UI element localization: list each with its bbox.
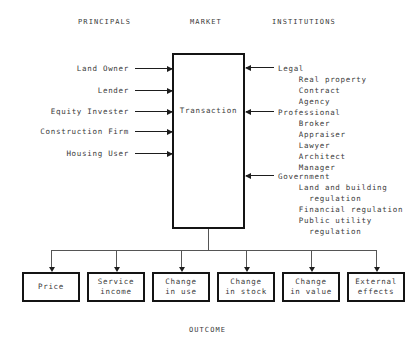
institution-arrow-icon [246,67,274,68]
institution-arrow-icon [246,111,274,112]
outcome-caption: OUTCOME [0,326,415,334]
diagram-canvas: PRINCIPALS MARKET INSTITUTIONS Transacti… [0,0,415,350]
principal-arrow-icon [135,90,172,91]
principal-arrow-icon [135,68,172,69]
outcome-dropper-icon [51,250,52,268]
distribution-bar [51,250,376,251]
principal-arrow-icon [135,153,172,154]
principal-arrow-icon [135,131,172,132]
outcome-dropper-icon [376,250,377,268]
column-header-principals: PRINCIPALS [78,18,131,26]
institution-group-legal: Legal Real property Contract Agency [278,63,367,107]
outcome-box: External effects [347,272,405,302]
outcome-box: Price [22,272,80,302]
outcome-box: Change in use [152,272,210,302]
principal-arrow-icon [135,111,172,112]
transaction-stem-connector [208,229,209,250]
institution-arrow-icon [246,175,274,176]
principal-label: Land Owner [77,64,129,73]
column-header-market: MARKET [190,18,222,26]
column-header-institutions: INSTITUTIONS [272,18,336,26]
outcome-dropper-icon [311,250,312,268]
institution-group-professional: Professional Broker Appraiser Lawyer Arc… [278,107,346,173]
outcome-dropper-icon [246,250,247,268]
transaction-box [172,53,245,229]
outcome-dropper-icon [116,250,117,268]
principal-label: Equity Invester [51,107,129,116]
outcome-box: Service income [87,272,145,302]
institution-group-government: Government Land and building regulation … [278,171,403,237]
principal-label: Housing User [66,149,129,158]
outcome-dropper-icon [181,250,182,268]
transaction-label: Transaction [172,106,245,115]
principal-label: Construction Firm [40,127,129,136]
principal-label: Lender [98,86,129,95]
outcome-box: Change in value [282,272,340,302]
outcome-box: Change in stock [217,272,275,302]
